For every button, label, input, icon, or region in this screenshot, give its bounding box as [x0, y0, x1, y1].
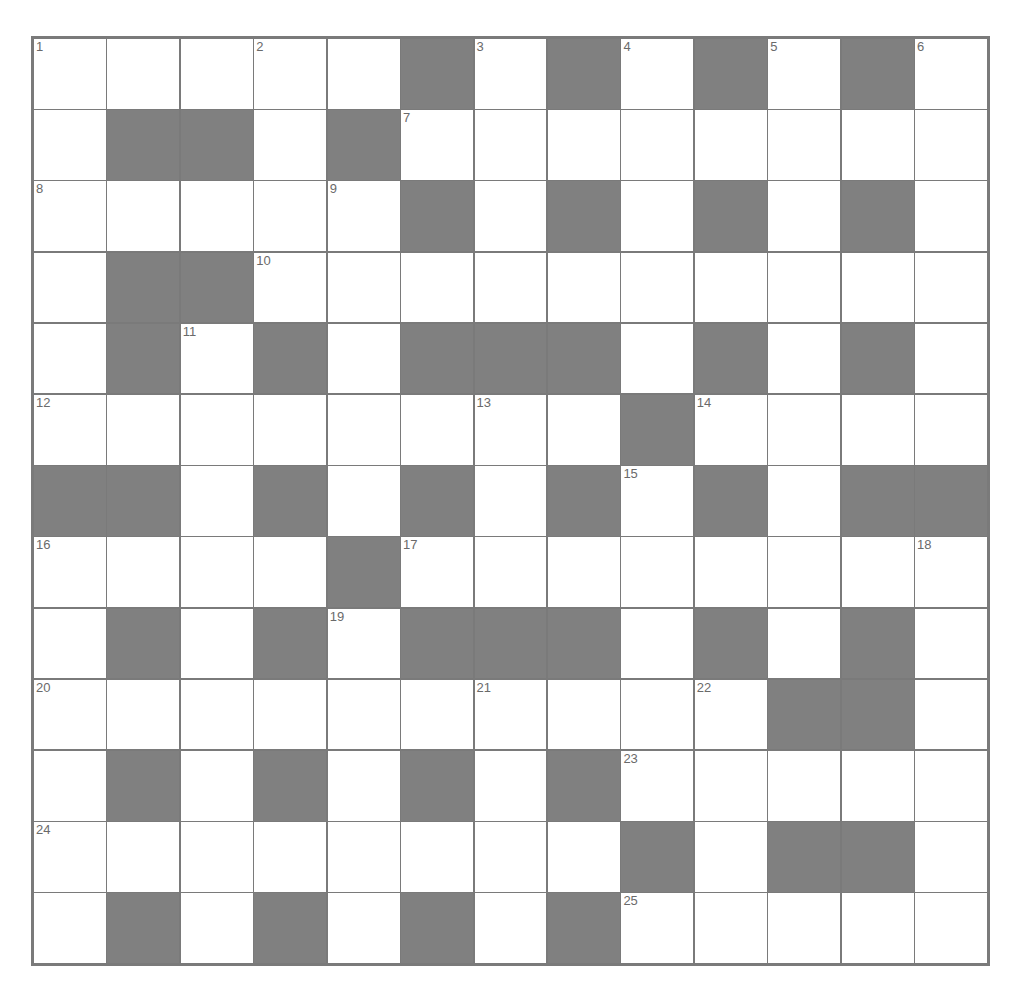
- answer-cell[interactable]: [107, 395, 179, 465]
- answer-cell[interactable]: [34, 893, 106, 963]
- answer-cell[interactable]: [475, 253, 547, 323]
- answer-cell[interactable]: [181, 751, 253, 821]
- answer-cell[interactable]: 24: [34, 822, 106, 892]
- answer-cell[interactable]: [768, 751, 840, 821]
- answer-cell[interactable]: 16: [34, 537, 106, 607]
- answer-cell[interactable]: [915, 609, 987, 679]
- answer-cell[interactable]: [254, 110, 326, 180]
- answer-cell[interactable]: 15: [621, 466, 693, 536]
- answer-cell[interactable]: [768, 609, 840, 679]
- answer-cell[interactable]: [621, 609, 693, 679]
- answer-cell[interactable]: [401, 680, 473, 750]
- answer-cell[interactable]: [181, 609, 253, 679]
- answer-cell[interactable]: [107, 822, 179, 892]
- answer-cell[interactable]: [475, 181, 547, 251]
- answer-cell[interactable]: [328, 324, 400, 394]
- answer-cell[interactable]: [548, 395, 620, 465]
- answer-cell[interactable]: [475, 110, 547, 180]
- answer-cell[interactable]: [548, 537, 620, 607]
- answer-cell[interactable]: [254, 181, 326, 251]
- answer-cell[interactable]: [181, 39, 253, 109]
- answer-cell[interactable]: [915, 893, 987, 963]
- answer-cell[interactable]: [34, 253, 106, 323]
- answer-cell[interactable]: [254, 680, 326, 750]
- answer-cell[interactable]: [181, 181, 253, 251]
- answer-cell[interactable]: [915, 110, 987, 180]
- answer-cell[interactable]: [475, 466, 547, 536]
- answer-cell[interactable]: 6: [915, 39, 987, 109]
- answer-cell[interactable]: [328, 253, 400, 323]
- answer-cell[interactable]: [695, 537, 767, 607]
- answer-cell[interactable]: [475, 893, 547, 963]
- answer-cell[interactable]: [181, 680, 253, 750]
- answer-cell[interactable]: [107, 181, 179, 251]
- answer-cell[interactable]: [768, 395, 840, 465]
- answer-cell[interactable]: [915, 822, 987, 892]
- answer-cell[interactable]: [181, 466, 253, 536]
- answer-cell[interactable]: 5: [768, 39, 840, 109]
- answer-cell[interactable]: [328, 395, 400, 465]
- answer-cell[interactable]: [548, 110, 620, 180]
- answer-cell[interactable]: 17: [401, 537, 473, 607]
- answer-cell[interactable]: [768, 537, 840, 607]
- answer-cell[interactable]: [621, 181, 693, 251]
- answer-cell[interactable]: [181, 395, 253, 465]
- answer-cell[interactable]: [842, 110, 914, 180]
- answer-cell[interactable]: 13: [475, 395, 547, 465]
- answer-cell[interactable]: [768, 181, 840, 251]
- answer-cell[interactable]: [695, 110, 767, 180]
- answer-cell[interactable]: 14: [695, 395, 767, 465]
- answer-cell[interactable]: [328, 39, 400, 109]
- answer-cell[interactable]: [768, 324, 840, 394]
- answer-cell[interactable]: [915, 751, 987, 821]
- answer-cell[interactable]: 19: [328, 609, 400, 679]
- answer-cell[interactable]: 25: [621, 893, 693, 963]
- answer-cell[interactable]: [915, 395, 987, 465]
- answer-cell[interactable]: 22: [695, 680, 767, 750]
- answer-cell[interactable]: [34, 609, 106, 679]
- answer-cell[interactable]: [842, 253, 914, 323]
- answer-cell[interactable]: [842, 537, 914, 607]
- answer-cell[interactable]: [328, 893, 400, 963]
- answer-cell[interactable]: [401, 395, 473, 465]
- answer-cell[interactable]: [621, 110, 693, 180]
- answer-cell[interactable]: [328, 680, 400, 750]
- answer-cell[interactable]: 20: [34, 680, 106, 750]
- answer-cell[interactable]: [695, 822, 767, 892]
- answer-cell[interactable]: [34, 751, 106, 821]
- answer-cell[interactable]: [181, 537, 253, 607]
- answer-cell[interactable]: [915, 181, 987, 251]
- answer-cell[interactable]: [695, 253, 767, 323]
- answer-cell[interactable]: [621, 253, 693, 323]
- answer-cell[interactable]: 2: [254, 39, 326, 109]
- answer-cell[interactable]: [254, 537, 326, 607]
- answer-cell[interactable]: [695, 751, 767, 821]
- answer-cell[interactable]: [181, 822, 253, 892]
- answer-cell[interactable]: [915, 253, 987, 323]
- answer-cell[interactable]: [328, 822, 400, 892]
- answer-cell[interactable]: 9: [328, 181, 400, 251]
- answer-cell[interactable]: 12: [34, 395, 106, 465]
- answer-cell[interactable]: [107, 680, 179, 750]
- answer-cell[interactable]: [695, 893, 767, 963]
- answer-cell[interactable]: [621, 537, 693, 607]
- answer-cell[interactable]: 11: [181, 324, 253, 394]
- answer-cell[interactable]: [768, 466, 840, 536]
- answer-cell[interactable]: [254, 395, 326, 465]
- answer-cell[interactable]: 8: [34, 181, 106, 251]
- answer-cell[interactable]: [915, 680, 987, 750]
- answer-cell[interactable]: [475, 822, 547, 892]
- answer-cell[interactable]: 4: [621, 39, 693, 109]
- answer-cell[interactable]: [254, 822, 326, 892]
- answer-cell[interactable]: [548, 822, 620, 892]
- answer-cell[interactable]: [621, 680, 693, 750]
- answer-cell[interactable]: [475, 537, 547, 607]
- answer-cell[interactable]: [915, 324, 987, 394]
- answer-cell[interactable]: [768, 110, 840, 180]
- answer-cell[interactable]: [328, 466, 400, 536]
- answer-cell[interactable]: [768, 253, 840, 323]
- answer-cell[interactable]: [401, 253, 473, 323]
- answer-cell[interactable]: [475, 751, 547, 821]
- answer-cell[interactable]: [548, 680, 620, 750]
- answer-cell[interactable]: [401, 822, 473, 892]
